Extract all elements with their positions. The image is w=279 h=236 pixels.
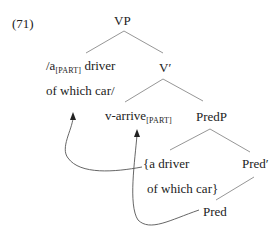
v-arrive-head: v-arrive [105, 108, 146, 123]
node-spec-line1: /a[PART] driver [46, 59, 115, 75]
spec-feature: [PART] [55, 66, 81, 75]
example-number: (71) [12, 17, 34, 30]
node-predp: PredP [196, 110, 227, 123]
node-subject-line1: {a driver [143, 157, 189, 170]
node-vbar: V′ [159, 61, 171, 74]
node-predbar: Pred′ [242, 157, 269, 170]
node-vp: VP [114, 14, 131, 27]
spec-det: /a [46, 58, 55, 73]
node-v-arrive: v-arrive[PART] [105, 109, 172, 125]
node-pred: Pred [203, 205, 227, 218]
node-spec-line2: of which car/ [46, 84, 115, 97]
node-subject-line2: of which car} [147, 182, 218, 195]
v-arrive-feature: [PART] [146, 116, 172, 125]
spec-noun: driver [81, 58, 115, 73]
